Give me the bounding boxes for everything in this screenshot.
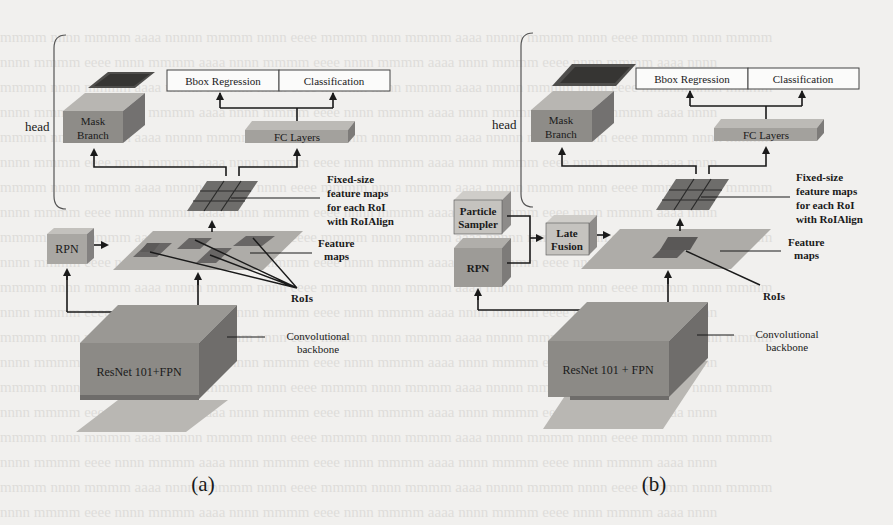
mask-branch-label-line2: Branch — [77, 129, 109, 141]
rpn-label-b: RPN — [467, 262, 490, 274]
backbone-label-b-line1: Convolutional — [756, 328, 819, 340]
panel-a: head Mask Branch Bbox Regression Classif… — [25, 35, 394, 496]
feature-maps-label-b-line1: Feature — [788, 236, 825, 248]
rois-label-a: RoIs — [291, 292, 314, 304]
rois-label-b: RoIs — [763, 290, 786, 302]
mask-branch-box: Mask Branch — [63, 72, 155, 143]
backbone-label-b-line2: backbone — [766, 341, 808, 353]
fixed-size-label-b-line2: feature maps — [796, 185, 858, 197]
feature-maps-label-line1: Feature — [318, 237, 355, 249]
backbone-box-label-a: ResNet 101+FPN — [96, 365, 181, 379]
fixed-size-label-line1: Fixed-size — [327, 173, 374, 185]
fixed-size-label-b-line3: for each RoI — [796, 199, 854, 211]
head-label-b: head — [492, 117, 517, 132]
late-fusion-label-line1: Late — [556, 227, 578, 239]
feature-maps-plane-a — [113, 231, 303, 270]
late-fusion-label-line2: Fusion — [551, 240, 583, 252]
fc-layers-label: FC Layers — [274, 131, 320, 143]
head-label: head — [25, 119, 50, 134]
bbox-regression-label-b: Bbox Regression — [654, 73, 730, 85]
fixed-size-label-b-line4: with RoIAlign — [796, 213, 863, 225]
feature-maps-plane-b — [581, 229, 771, 269]
panel-b: head Mask Branch Bbox Regression Classif… — [454, 33, 863, 496]
mask-branch-label-line1: Mask — [81, 115, 106, 127]
backbone-box-a: ResNet 101+FPN — [76, 305, 237, 432]
backbone-box-label-b: ResNet 101 + FPN — [562, 363, 653, 377]
fc-layers-box: FC Layers — [245, 121, 355, 143]
backbone-label-a-line1: Convolutional — [287, 330, 350, 342]
fixed-size-label-line4: with RoIAlign — [327, 215, 394, 227]
caption-a: (a) — [191, 472, 214, 496]
particle-sampler-label-line1: Particle — [460, 205, 497, 217]
caption-b: (b) — [642, 472, 667, 496]
output-boxes: Bbox Regression Classification — [167, 70, 390, 91]
mask-branch-label-b-line1: Mask — [549, 114, 574, 126]
fc-layers-box-b: FC Layers — [714, 119, 824, 141]
late-fusion-box: Late Fusion — [546, 215, 597, 255]
feature-maps-label-b-line2: maps — [794, 249, 820, 261]
classification-label-b: Classification — [773, 73, 834, 85]
classification-label: Classification — [304, 75, 365, 87]
mask-rcnn-architecture-figure: head Mask Branch Bbox Regression Classif… — [0, 0, 893, 525]
output-boxes-b: Bbox Regression Classification — [636, 68, 859, 89]
rpn-box-a: RPN — [47, 228, 94, 264]
particle-sampler-box: Particle Sampler — [454, 191, 511, 234]
particle-sampler-label-line2: Sampler — [458, 218, 498, 230]
rpn-label-a: RPN — [55, 242, 79, 256]
mask-branch-box-b: Mask Branch — [531, 64, 636, 142]
bbox-regression-label: Bbox Regression — [185, 75, 261, 87]
fixed-size-feature-grid — [187, 181, 258, 211]
fc-layers-label-b: FC Layers — [743, 129, 789, 141]
fixed-size-label-line2: feature maps — [327, 187, 389, 199]
fixed-size-label-line3: for each RoI — [327, 201, 385, 213]
rpn-box-b: RPN — [454, 238, 511, 287]
mask-branch-label-b-line2: Branch — [545, 128, 577, 140]
backbone-box-b: ResNet 101 + FPN — [543, 302, 708, 429]
fixed-size-feature-grid-b — [656, 179, 729, 210]
backbone-label-a-line2: backbone — [297, 343, 339, 355]
feature-maps-label-line2: maps — [324, 250, 350, 262]
fixed-size-label-b-line1: Fixed-size — [796, 171, 843, 183]
